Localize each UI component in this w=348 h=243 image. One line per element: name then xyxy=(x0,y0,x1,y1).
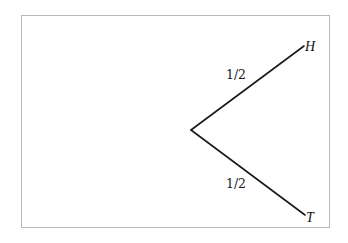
probability-label-heads: 1/2 xyxy=(226,67,246,82)
branch-heads-line xyxy=(191,46,304,130)
outcome-label-tails: T xyxy=(306,210,315,225)
probability-label-tails: 1/2 xyxy=(226,176,246,191)
probability-tree: 1/2 1/2 H T xyxy=(0,0,348,243)
outcome-label-heads: H xyxy=(304,39,316,54)
branch-tails-line xyxy=(191,130,305,215)
